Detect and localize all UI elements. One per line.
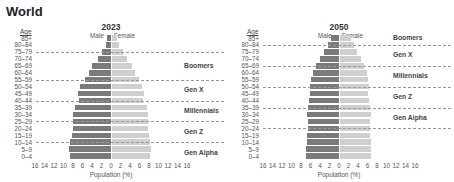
age-tick-label: 35–39 (231, 104, 259, 111)
generation-divider (263, 108, 451, 109)
male-bar (80, 84, 111, 90)
age-tick-label: 50–54 (231, 83, 259, 90)
male-bar (310, 91, 339, 97)
female-bar (340, 49, 358, 55)
age-tick-label: 25–29 (4, 118, 32, 125)
age-tick-label: 5–9 (4, 146, 32, 153)
age-tick-label: 75–79 (4, 48, 32, 55)
generation-label: Millennials (393, 72, 428, 79)
male-bar (306, 153, 339, 159)
female-bar (340, 56, 361, 62)
age-tick-label: 35–39 (4, 104, 32, 111)
female-bar (340, 133, 370, 139)
age-tick-label: 10–14 (4, 139, 32, 146)
male-bar (331, 35, 339, 41)
male-label: Male (90, 32, 104, 39)
generation-divider (36, 80, 224, 81)
x-axis-title: Population (%) (299, 171, 379, 178)
pyramid-2023: 2023AgeMaleFemale85+80–8475–7970–7465–69… (0, 0, 227, 182)
female-bar (340, 112, 372, 118)
x-tick-label: 16 (409, 162, 421, 169)
female-bar (112, 63, 132, 69)
age-tick-label: 55–59 (4, 76, 32, 83)
age-tick-label: 15–19 (4, 132, 32, 139)
age-tick-label: 60–64 (4, 69, 32, 76)
age-tick-label: 5–9 (231, 146, 259, 153)
generation-divider (36, 52, 224, 53)
male-bar (69, 146, 111, 152)
male-bar (307, 139, 339, 145)
female-bar (340, 139, 371, 145)
female-bar (112, 91, 144, 97)
female-bar (112, 35, 117, 41)
female-bar (112, 126, 148, 132)
generation-divider (36, 121, 224, 122)
age-tick-label: 10–14 (231, 139, 259, 146)
age-tick-label: 30–34 (231, 111, 259, 118)
female-bar (112, 42, 119, 48)
female-bar (340, 35, 351, 41)
age-tick-label: 70–74 (231, 55, 259, 62)
pyramid-2050: 2050AgeMaleFemale85+80–8475–7970–7465–69… (227, 0, 454, 182)
male-bar (72, 133, 111, 139)
male-bar (311, 77, 339, 83)
generation-divider (263, 66, 451, 67)
generation-label: Gen Z (393, 93, 412, 100)
generation-divider (263, 45, 451, 46)
generation-divider (263, 87, 451, 88)
male-bar (73, 112, 111, 118)
female-bar (112, 112, 149, 118)
male-bar (307, 112, 339, 118)
age-tick-label: 50–54 (4, 83, 32, 90)
generation-label: Gen Alpha (393, 114, 427, 121)
female-bar (112, 105, 148, 111)
age-tick-label: 40–44 (4, 97, 32, 104)
age-tick-label: 20–24 (4, 125, 32, 132)
age-tick-label: 65–69 (231, 62, 259, 69)
female-bar (340, 153, 371, 159)
female-bar (112, 133, 149, 139)
age-tick-label: 45–49 (4, 90, 32, 97)
female-bar (112, 70, 136, 76)
age-tick-label: 80–84 (4, 41, 32, 48)
male-bar (307, 133, 339, 139)
generation-divider (36, 142, 224, 143)
male-bar (73, 126, 111, 132)
male-bar (313, 70, 339, 76)
generation-label: Millennials (184, 107, 219, 114)
year-title: 2050 (309, 22, 369, 32)
male-bar (75, 105, 111, 111)
male-bar (309, 98, 339, 104)
age-tick-label: 40–44 (231, 97, 259, 104)
age-tick-label: 15–19 (231, 132, 259, 139)
age-tick-label: 30–34 (4, 111, 32, 118)
female-bar (112, 56, 128, 62)
female-bar (112, 146, 151, 152)
generation-label: Gen X (184, 86, 204, 93)
age-tick-label: 55–59 (231, 76, 259, 83)
female-bar (112, 153, 150, 159)
generation-label: Boomers (393, 34, 422, 41)
female-bar (112, 84, 143, 90)
female-bar (340, 98, 370, 104)
male-label: Male (318, 32, 332, 39)
male-bar (92, 63, 111, 69)
female-bar (340, 91, 369, 97)
female-bar (340, 77, 369, 83)
age-tick-label: 80–84 (231, 41, 259, 48)
generation-label: Gen Alpha (184, 149, 218, 156)
generation-label: Boomers (184, 62, 213, 69)
age-tick-label: 20–24 (231, 125, 259, 132)
male-bar (320, 56, 339, 62)
generation-divider (263, 128, 451, 129)
male-bar (107, 35, 111, 41)
male-bar (106, 42, 111, 48)
male-bar (78, 91, 111, 97)
female-bar (340, 119, 371, 125)
male-bar (306, 146, 339, 152)
age-tick-label: 0–4 (231, 153, 259, 160)
female-label: Female (114, 32, 135, 39)
female-bar (340, 146, 371, 152)
male-bar (89, 70, 111, 76)
age-tick-label: 85+ (231, 35, 259, 42)
